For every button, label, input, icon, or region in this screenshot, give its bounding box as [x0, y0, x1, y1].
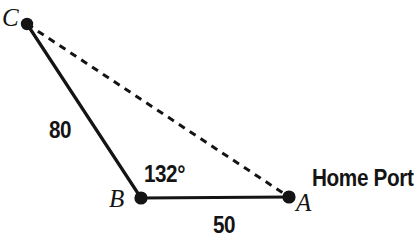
vertex-dot-B [134, 191, 147, 204]
side-length-label-cb: 80 [49, 118, 71, 142]
geometry-diagram: C B A 80 132° 50 Home Port [0, 0, 418, 250]
vertex-dot-C [21, 18, 33, 30]
edge-BA-solid [141, 197, 289, 198]
angle-measure-label-b: 132° [144, 162, 185, 186]
vertex-label-a: A [296, 190, 311, 215]
vertex-label-c: C [2, 5, 19, 30]
home-port-annotation-label: Home Port [312, 167, 413, 190]
side-length-label-ba: 50 [213, 213, 235, 237]
vertex-label-b: B [109, 186, 124, 211]
vertex-dot-A [282, 190, 295, 203]
edge-CB-solid [27, 24, 141, 198]
